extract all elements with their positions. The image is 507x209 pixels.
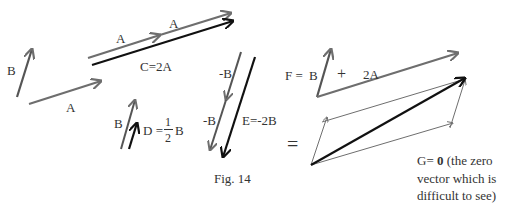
label-a-second: A: [169, 17, 178, 30]
label-2a: 2A: [363, 68, 379, 81]
label-g-prefix: G=: [417, 153, 434, 168]
vector-diagram: B A A A C=2A B D = 1 2 B -B -B E=-2B Fig…: [0, 0, 507, 209]
fraction-bar: [164, 129, 173, 130]
parallelogram-b-right: [450, 80, 465, 128]
label-d-numerator: 1: [165, 116, 171, 128]
vector-b: [17, 49, 32, 97]
label-g-zero: 0: [437, 153, 444, 168]
label-d-suffix: B: [175, 124, 184, 137]
vector-b-small: [121, 100, 135, 149]
vector-f-b: [317, 49, 331, 97]
equals-sign: =: [287, 134, 298, 154]
vector-a: [29, 81, 101, 104]
label-neg-b-bottom: -B: [203, 114, 216, 127]
label-d-prefix: D =: [143, 124, 163, 137]
label-g-line1: G= 0 (the zero: [417, 154, 493, 167]
label-plus: +: [337, 66, 346, 82]
label-e: E=-2B: [242, 114, 277, 127]
label-b-small: B: [114, 117, 123, 130]
parallelogram-2a-top: [322, 79, 465, 122]
figure-caption: Fig. 14: [214, 172, 251, 185]
label-b: B: [7, 64, 16, 77]
label-f-b: B: [309, 69, 318, 82]
label-a-first: A: [116, 32, 125, 45]
vector-d: [129, 123, 137, 149]
label-g-line3: difficult to see): [417, 189, 496, 202]
label-d-denominator: 2: [165, 132, 171, 144]
label-neg-b-top: -B: [219, 67, 232, 80]
label-g-suffix: (the zero: [447, 153, 493, 168]
label-a: A: [66, 101, 75, 114]
label-g-line2: vector which is: [417, 172, 496, 185]
label-c: C=2A: [140, 60, 172, 73]
label-f-prefix: F =: [285, 69, 303, 82]
